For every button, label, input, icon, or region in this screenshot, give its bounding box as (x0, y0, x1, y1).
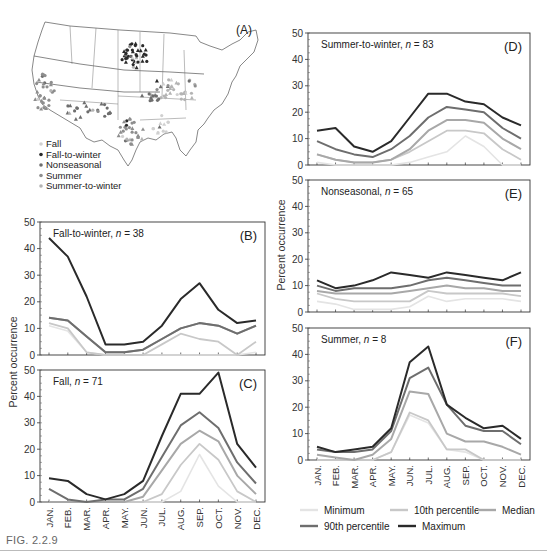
x-tick-label: MAY. (119, 507, 130, 528)
chart-panel-d: 01020304050Summer-to-winter, n = 83(D) (292, 28, 530, 171)
x-tick-label: AUG. (175, 507, 186, 530)
x-tick-label: JUL. (423, 465, 434, 485)
us-map-outline (32, 22, 258, 166)
map-legend-label: Summer (46, 170, 82, 181)
panel-label: (C) (239, 376, 257, 391)
y-tick-label: 50 (292, 28, 304, 39)
y-tick-label: 0 (29, 497, 35, 508)
map-legend-label: Fall-to-winter (46, 149, 101, 160)
panel-label-a: (A) (236, 23, 252, 37)
map-legend-marker (39, 163, 43, 167)
series-minimum (49, 455, 256, 503)
map-legend-label: Summer-to-winter (46, 180, 122, 191)
y-tick-label: 40 (292, 54, 304, 65)
y-tick-label: 20 (292, 107, 304, 118)
y-tick-label: 40 (292, 349, 304, 360)
x-tick-label: APR. (367, 465, 378, 487)
x-tick-label: AUG. (441, 465, 452, 488)
x-tick-label: OCT. (213, 507, 224, 529)
y-tick-label: 50 (24, 365, 36, 376)
y-tick-label: 50 (24, 217, 36, 228)
x-tick-label: DEC. (251, 507, 262, 530)
series-maximum (317, 347, 521, 453)
map-legend-marker (39, 153, 43, 157)
y-tick-label: 0 (29, 350, 35, 361)
map-legend-marker (39, 184, 43, 188)
series-10th-percentile (317, 291, 521, 302)
y-tick-label: 30 (24, 270, 36, 281)
y-axis-label-left: Percent occurrence (7, 316, 19, 407)
y-tick-label: 20 (24, 444, 36, 455)
y-tick-label: 10 (24, 470, 36, 481)
legend-label: Median (502, 505, 535, 516)
y-tick-label: 0 (297, 455, 303, 466)
x-tick-label: JAN. (44, 507, 55, 528)
y-tick-label: 50 (292, 323, 304, 334)
chart-panel-c: 01020304050JAN.FEB.MAR.APR.MAY.JUN.JUL.A… (24, 365, 265, 531)
chart-panel-f: 01020304050JAN.FEB.MAR.APR.MAY.JUN.JUL.A… (292, 323, 530, 489)
series-maximum (317, 272, 521, 288)
x-tick-label: JAN. (312, 465, 323, 486)
x-tick-label: NOV. (497, 465, 508, 487)
plot-frame (308, 180, 530, 312)
series-90th-percentile (317, 368, 521, 453)
map-panel-a: (A) FallFall-to-winterNonseasonalSummerS… (32, 22, 258, 191)
legend-label: Minimum (324, 505, 365, 516)
series-10th-percentile (317, 131, 521, 163)
y-tick-label: 30 (292, 375, 304, 386)
series-minimum (317, 415, 521, 460)
panel-label: (E) (505, 186, 522, 201)
x-tick-label: SEP. (194, 507, 205, 527)
x-tick-label: FEB. (330, 465, 341, 486)
panel-title: Summer-to-winter, n = 83 (321, 39, 434, 50)
x-tick-label: SEP. (460, 465, 471, 485)
x-tick-label: MAR. (81, 507, 92, 531)
x-tick-label: FEB. (62, 507, 73, 528)
panel-label: (B) (240, 228, 257, 243)
y-tick-label: 30 (292, 80, 304, 91)
plot-frame (308, 328, 530, 460)
legend-label: 10th percentile (414, 505, 480, 516)
panel-title: Summer, n = 8 (321, 334, 387, 345)
figure: (A) FallFall-to-winterNonseasonalSummerS… (0, 0, 547, 559)
x-tick-label: NOV. (232, 507, 243, 529)
x-tick-label: DEC. (516, 465, 527, 488)
y-tick-label: 0 (297, 160, 303, 171)
y-tick-label: 10 (24, 323, 36, 334)
map-legend-label: Fall (46, 138, 61, 149)
y-tick-label: 40 (24, 243, 36, 254)
chart-panel-e: 01020304050Nonseasonal, n = 65(E) (292, 175, 530, 318)
y-tick-label: 40 (24, 391, 36, 402)
panel-title: Fall-to-winter, n = 38 (53, 228, 144, 239)
panel-label: (F) (505, 334, 522, 349)
y-tick-label: 0 (297, 307, 303, 318)
caption-divider (0, 550, 547, 551)
map-legend-marker (39, 174, 43, 178)
figure-canvas: (A) FallFall-to-winterNonseasonalSummerS… (0, 0, 547, 559)
x-tick-label: MAY. (386, 465, 397, 486)
y-tick-label: 50 (292, 175, 304, 186)
y-axis-label-right: Percent occurrence (275, 199, 287, 290)
map-legend-label: Nonseasonal (46, 159, 101, 170)
legend-label: 90th percentile (324, 521, 390, 532)
panel-title: Fall, n = 71 (53, 376, 103, 387)
y-tick-label: 20 (292, 402, 304, 413)
x-tick-label: OCT. (478, 465, 489, 487)
x-tick-label: JUN. (404, 465, 415, 486)
series-legend: Minimum10th percentileMedian90th percent… (300, 505, 535, 532)
y-tick-label: 30 (292, 227, 304, 238)
y-tick-label: 20 (292, 254, 304, 265)
y-tick-label: 10 (292, 428, 304, 439)
y-tick-label: 40 (292, 201, 304, 212)
y-tick-label: 10 (292, 133, 304, 144)
y-tick-label: 30 (24, 417, 36, 428)
series-maximum (49, 373, 256, 500)
y-tick-label: 10 (292, 280, 304, 291)
map-legend-marker (39, 142, 43, 146)
x-tick-label: JUN. (138, 507, 149, 528)
series-minimum (317, 296, 521, 309)
series-maximum (317, 94, 521, 152)
series-90th-percentile (317, 107, 521, 157)
map-legend: FallFall-to-winterNonseasonalSummerSumme… (39, 138, 121, 191)
x-tick-label: MAR. (349, 465, 360, 489)
